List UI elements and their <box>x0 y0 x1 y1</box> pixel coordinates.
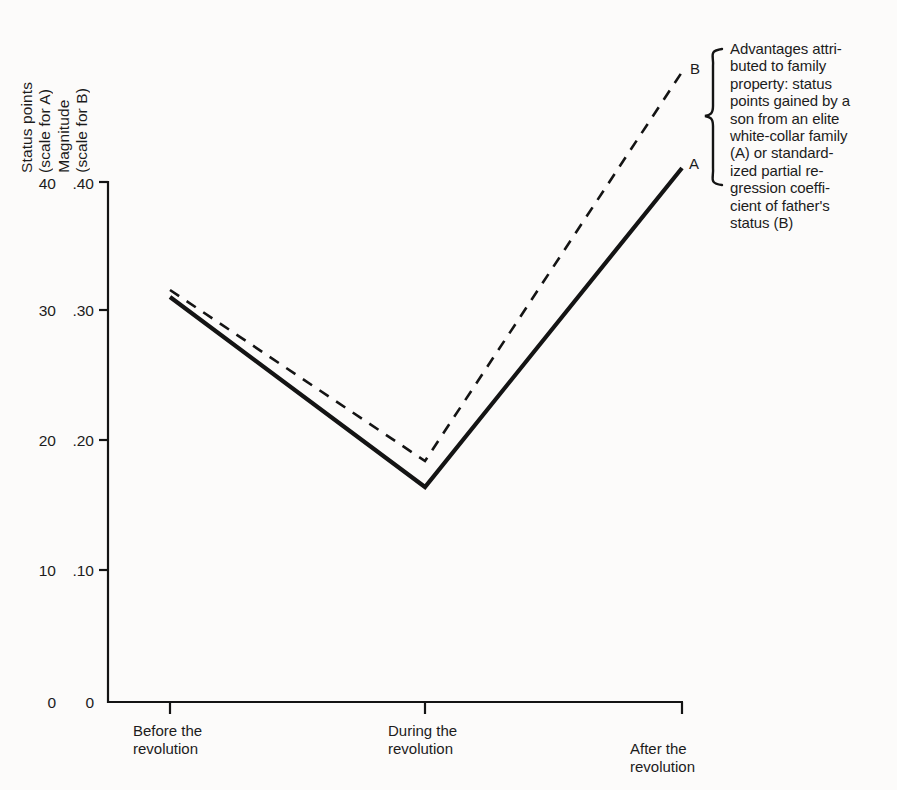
series-a-line <box>170 168 682 487</box>
chart-page: Status points (scale for A) Magnitude (s… <box>0 0 897 790</box>
chart-plot-area <box>0 0 897 790</box>
legend-brace <box>705 49 722 185</box>
